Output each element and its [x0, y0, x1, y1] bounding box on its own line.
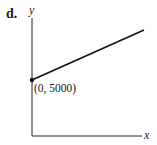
- line-chart: [0, 0, 157, 145]
- data-line: [32, 30, 144, 80]
- intercept-point-label: (0, 5000): [34, 82, 76, 94]
